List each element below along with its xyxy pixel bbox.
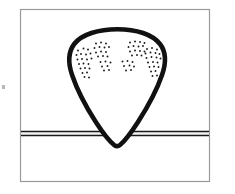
stipple-dot xyxy=(102,55,104,57)
stipple-dot xyxy=(132,61,134,63)
stipple-dot xyxy=(86,72,88,74)
stipple-dot xyxy=(136,54,138,56)
stipple-dot xyxy=(138,46,140,48)
stipple-dot xyxy=(145,53,147,55)
stipple-dot xyxy=(146,48,148,50)
stipple-dot xyxy=(107,65,109,67)
stipple-dot xyxy=(139,50,141,52)
stipple-dot xyxy=(127,60,129,62)
stipple-dot xyxy=(158,66,160,68)
stipple-dot xyxy=(131,55,133,57)
stipple-dot xyxy=(110,62,112,64)
stipple-dot xyxy=(156,75,158,77)
stipple-dot xyxy=(83,63,85,65)
stipple-dot xyxy=(139,41,141,43)
stipple-dot xyxy=(100,51,102,53)
stipple-dot xyxy=(80,68,82,70)
stipple-dot xyxy=(133,66,135,68)
stipple-dot xyxy=(77,50,79,52)
stipple-dot xyxy=(104,47,106,49)
stipple-dot xyxy=(147,62,149,64)
stipple-dot xyxy=(150,52,152,54)
stipple-dot xyxy=(122,61,124,63)
stipple-dot xyxy=(81,58,83,60)
stipple-dot xyxy=(134,41,136,43)
stipple-dot xyxy=(105,61,107,63)
stipple-dot xyxy=(157,62,159,64)
stipple-dot xyxy=(152,61,154,63)
stipple-dot xyxy=(130,69,132,71)
stipple-dot xyxy=(76,54,78,56)
stipple-dot xyxy=(160,58,162,60)
figure-container xyxy=(0,0,235,194)
stipple-dot xyxy=(84,76,86,78)
stipple-dot xyxy=(78,63,80,65)
stipple-dot xyxy=(156,57,158,59)
stipple-dot xyxy=(87,49,89,51)
stipple-dot xyxy=(101,66,103,68)
stipple-dot xyxy=(144,42,146,44)
stipple-dot xyxy=(125,70,127,72)
stipple-dot xyxy=(134,50,136,52)
stipple-dot xyxy=(100,42,102,44)
stipple-dot xyxy=(133,45,135,47)
stipple-dot xyxy=(84,67,86,69)
stipple-dot xyxy=(86,59,88,61)
stipple-dot xyxy=(97,56,99,58)
stipple-dot xyxy=(155,70,157,72)
stipple-dot xyxy=(129,51,131,53)
stipple-dot xyxy=(105,43,107,45)
stipple-dot xyxy=(91,58,93,60)
stipple-dot xyxy=(83,48,85,50)
stipple-dot xyxy=(149,66,151,68)
stipple-dot xyxy=(89,68,91,70)
stipple-dot xyxy=(90,53,92,55)
line-art-diagram xyxy=(0,0,235,194)
stipple-dot xyxy=(100,61,102,63)
stipple-dot xyxy=(150,71,152,73)
stipple-dot xyxy=(88,77,90,79)
stipple-dot xyxy=(108,46,110,48)
stipple-dot xyxy=(151,56,153,58)
stipple-dot xyxy=(156,49,158,51)
left-margin-artifact xyxy=(2,85,5,89)
stipple-dot xyxy=(88,63,90,65)
stipple-dot xyxy=(123,65,125,67)
stipple-dot xyxy=(144,51,146,53)
stipple-dot xyxy=(85,54,87,56)
stipple-dot xyxy=(95,52,97,54)
stipple-dot xyxy=(159,53,161,55)
stipple-dot xyxy=(141,55,143,57)
stipple-dot xyxy=(77,59,79,61)
stipple-dot xyxy=(142,45,144,47)
stipple-dot xyxy=(107,56,109,58)
stipple-dot xyxy=(95,43,97,45)
stipple-dot xyxy=(94,47,96,49)
stipple-dot xyxy=(155,52,157,54)
stipple-dot xyxy=(105,51,107,53)
stipple-dot xyxy=(128,46,130,48)
stipple-dot xyxy=(82,72,84,74)
stipple-dot xyxy=(151,47,153,49)
stipple-dot xyxy=(108,69,110,71)
stipple-dot xyxy=(99,46,101,48)
stipple-dot xyxy=(103,70,105,72)
stipple-dot xyxy=(129,65,131,67)
stipple-dot xyxy=(153,66,155,68)
stipple-dot xyxy=(129,42,131,44)
stipple-dot xyxy=(146,57,148,59)
stipple-dot xyxy=(152,75,154,77)
stipple-dot xyxy=(80,53,82,55)
